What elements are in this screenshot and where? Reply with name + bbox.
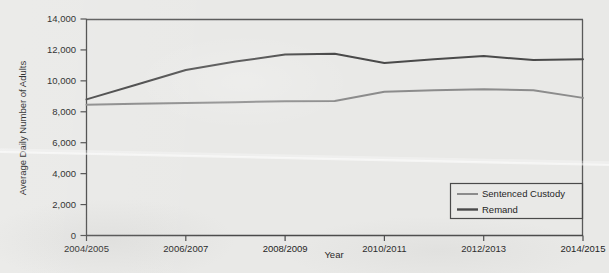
line-chart-figure: 02,0004,0006,0008,00010,00012,00014,000 …	[0, 0, 609, 273]
y-axis-tick-label: 6,000	[52, 137, 76, 148]
x-axis-title: Year	[324, 249, 343, 260]
chart-legend: Sentenced CustodyRemand	[451, 184, 583, 219]
legend-label-sentenced-custody: Sentenced Custody	[482, 188, 565, 199]
x-axis-tick-label: 2006/2007	[163, 243, 208, 254]
chart-canvas: 02,0004,0006,0008,00010,00012,00014,000 …	[0, 0, 609, 273]
y-axis-ticks	[81, 19, 87, 236]
y-axis-tick-label: 14,000	[47, 13, 76, 24]
series-line-sentenced-custody	[87, 89, 584, 104]
data-series-group	[87, 54, 584, 105]
legend-label-remand: Remand	[482, 204, 518, 215]
x-axis-tick-label: 2012/2013	[461, 243, 506, 254]
y-axis-tick-label: 2,000	[52, 199, 76, 210]
y-axis-tick-label: 8,000	[52, 106, 76, 117]
x-axis-tick-label: 2014/2015	[561, 243, 606, 254]
y-axis-title: Average Daily Number of Adults	[17, 61, 28, 196]
y-axis: 02,0004,0006,0008,00010,00012,00014,000	[47, 13, 87, 241]
y-axis-tick-label: 12,000	[47, 44, 76, 55]
x-axis-tick-label: 2004/2005	[64, 243, 109, 254]
x-axis-ticks	[87, 236, 584, 242]
x-axis-tick-label: 2010/2011	[362, 243, 406, 254]
x-axis-tick-label: 2008/2009	[263, 243, 308, 254]
y-axis-tick-label: 4,000	[52, 168, 76, 179]
series-line-remand	[87, 54, 584, 100]
y-axis-tick-labels: 02,0004,0006,0008,00010,00012,00014,000	[47, 13, 76, 241]
y-axis-tick-label: 10,000	[47, 75, 76, 86]
y-axis-tick-label: 0	[71, 230, 76, 241]
legend-entries: Sentenced CustodyRemand	[457, 188, 565, 215]
